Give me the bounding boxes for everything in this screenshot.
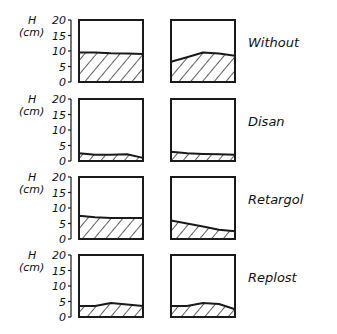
- right-panel: [171, 177, 235, 239]
- sediment-area: [79, 153, 143, 161]
- treatment-label: Retargol: [248, 192, 304, 207]
- y-tick-label: 10: [52, 202, 66, 215]
- right-panel: [171, 255, 235, 317]
- left-panel: [79, 177, 143, 239]
- y-tick-label: 20: [52, 14, 66, 27]
- left-panel: [79, 255, 143, 317]
- sediment-area: [79, 53, 143, 83]
- y-tick-label: 5: [59, 218, 66, 231]
- y-axis-unit: (cm): [19, 261, 44, 274]
- y-axis: 20151050H(cm): [19, 249, 71, 324]
- y-axis-unit: (cm): [19, 26, 44, 39]
- y-tick-label: 0: [59, 311, 66, 324]
- sediment-area: [171, 152, 235, 161]
- panel-frame: [79, 99, 143, 161]
- y-axis: 20151050H(cm): [19, 93, 71, 168]
- y-tick-label: 0: [59, 233, 66, 246]
- row-without: 20151050H(cm)Without: [19, 14, 300, 89]
- y-tick-label: 10: [52, 124, 66, 137]
- left-panel: [79, 20, 143, 82]
- right-panel: [171, 20, 235, 82]
- y-axis: 20151050H(cm): [19, 14, 71, 89]
- right-panel: [171, 99, 235, 161]
- row-disan: 20151050H(cm)Disan: [19, 93, 285, 168]
- row-retargol: 20151050H(cm)Retargol: [19, 171, 304, 246]
- y-axis-unit: (cm): [19, 105, 44, 118]
- diagram-canvas: 20151050H(cm)Without20151050H(cm)Disan20…: [0, 0, 337, 334]
- y-tick-label: 15: [52, 187, 66, 200]
- y-tick-label: 15: [52, 30, 66, 43]
- y-tick-label: 10: [52, 45, 66, 58]
- row-replost: 20151050H(cm)Replost: [19, 249, 298, 324]
- y-tick-label: 20: [52, 93, 66, 106]
- y-tick-label: 5: [59, 61, 66, 74]
- treatment-label: Without: [248, 35, 300, 50]
- y-tick-label: 5: [59, 140, 66, 153]
- y-tick-label: 20: [52, 249, 66, 262]
- treatment-label: Replost: [248, 270, 298, 285]
- y-tick-label: 0: [59, 76, 66, 89]
- y-tick-label: 20: [52, 171, 66, 184]
- left-panel: [79, 99, 143, 161]
- sediment-area: [171, 220, 235, 239]
- y-tick-label: 15: [52, 265, 66, 278]
- sediment-area: [171, 53, 235, 83]
- sediment-area: [79, 216, 143, 239]
- treatment-label: Disan: [248, 114, 285, 129]
- sediment-area: [171, 303, 235, 317]
- y-tick-label: 5: [59, 296, 66, 309]
- sediment-area: [79, 303, 143, 317]
- y-tick-label: 15: [52, 109, 66, 122]
- y-tick-label: 10: [52, 280, 66, 293]
- y-axis-unit: (cm): [19, 183, 44, 196]
- y-tick-label: 0: [59, 155, 66, 168]
- y-axis: 20151050H(cm): [19, 171, 71, 246]
